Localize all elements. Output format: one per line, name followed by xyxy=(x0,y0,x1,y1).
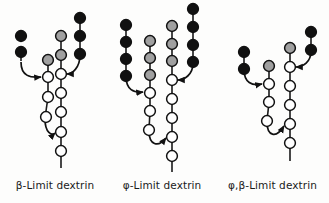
residue-black xyxy=(16,31,27,42)
residue-gray xyxy=(264,61,275,72)
residue-gray xyxy=(56,31,67,42)
residue-white xyxy=(56,146,67,157)
residue-black xyxy=(121,20,132,31)
residue-gray xyxy=(43,55,54,66)
beta-limit-dextrin-structure xyxy=(0,0,110,176)
branch-linkage-arrows xyxy=(126,63,193,144)
residue-gray xyxy=(145,36,156,47)
branch-linkage-arrows xyxy=(244,51,311,134)
residue-white xyxy=(167,75,178,86)
residue-white xyxy=(56,127,67,138)
limit-dextrin-figure: β-Limit dextrin xyxy=(0,0,329,203)
residue-black xyxy=(239,64,250,75)
residue-black xyxy=(121,71,132,82)
residue-gray xyxy=(145,53,156,64)
residue-white xyxy=(285,81,296,92)
residue-gray xyxy=(167,56,178,67)
bonds xyxy=(126,9,193,172)
residue-black xyxy=(75,13,86,24)
residue-gray xyxy=(167,21,178,32)
residue-white xyxy=(144,125,155,136)
residue-white xyxy=(56,69,67,80)
residue-white xyxy=(285,119,296,130)
residue-gray xyxy=(145,70,156,81)
residue-white xyxy=(167,94,178,105)
residue-white xyxy=(167,151,178,162)
residue-white xyxy=(43,92,54,103)
panel-caption: β-Limit dextrin xyxy=(0,179,110,191)
panel-phi-beta-limit-dextrin: φ,β-Limit dextrin xyxy=(216,0,329,203)
residue-white xyxy=(264,97,275,108)
residue-black xyxy=(16,47,27,58)
residue-white xyxy=(167,113,178,124)
residue-black xyxy=(188,4,199,15)
residue-black xyxy=(188,57,199,68)
residue-white xyxy=(56,107,67,118)
residue-black xyxy=(75,31,86,42)
residue-black xyxy=(121,54,132,65)
residue-white xyxy=(56,88,67,99)
branch-arrow-left xyxy=(21,62,41,77)
residue-white xyxy=(285,138,296,149)
residue-white xyxy=(43,72,54,83)
residues xyxy=(16,13,86,157)
residue-black xyxy=(188,22,199,33)
residue-white xyxy=(285,100,296,111)
residue-black xyxy=(188,40,199,51)
residues xyxy=(121,4,199,162)
panel-caption: φ,β-Limit dextrin xyxy=(216,179,329,191)
residue-black xyxy=(75,49,86,60)
panel-beta-limit-dextrin: β-Limit dextrin xyxy=(0,0,110,203)
residue-gray xyxy=(167,39,178,50)
residue-black xyxy=(306,27,317,38)
residue-white xyxy=(145,106,156,117)
residue-white xyxy=(41,112,52,123)
residue-white xyxy=(145,88,156,99)
residue-white xyxy=(264,79,275,90)
residue-black xyxy=(239,47,250,58)
residue-white xyxy=(167,132,178,143)
panel-phi-limit-dextrin: φ-Limit dextrin xyxy=(104,0,220,203)
residue-black xyxy=(306,45,317,56)
residue-black xyxy=(121,37,132,48)
bonds xyxy=(244,32,311,161)
residues xyxy=(239,27,317,149)
phi-beta-limit-dextrin-structure xyxy=(216,0,329,176)
panel-caption: φ-Limit dextrin xyxy=(104,179,220,191)
residue-white xyxy=(262,116,273,127)
residue-gray xyxy=(285,43,296,54)
residue-gray xyxy=(56,50,67,61)
residue-white xyxy=(285,62,296,73)
phi-limit-dextrin-structure xyxy=(104,0,220,176)
